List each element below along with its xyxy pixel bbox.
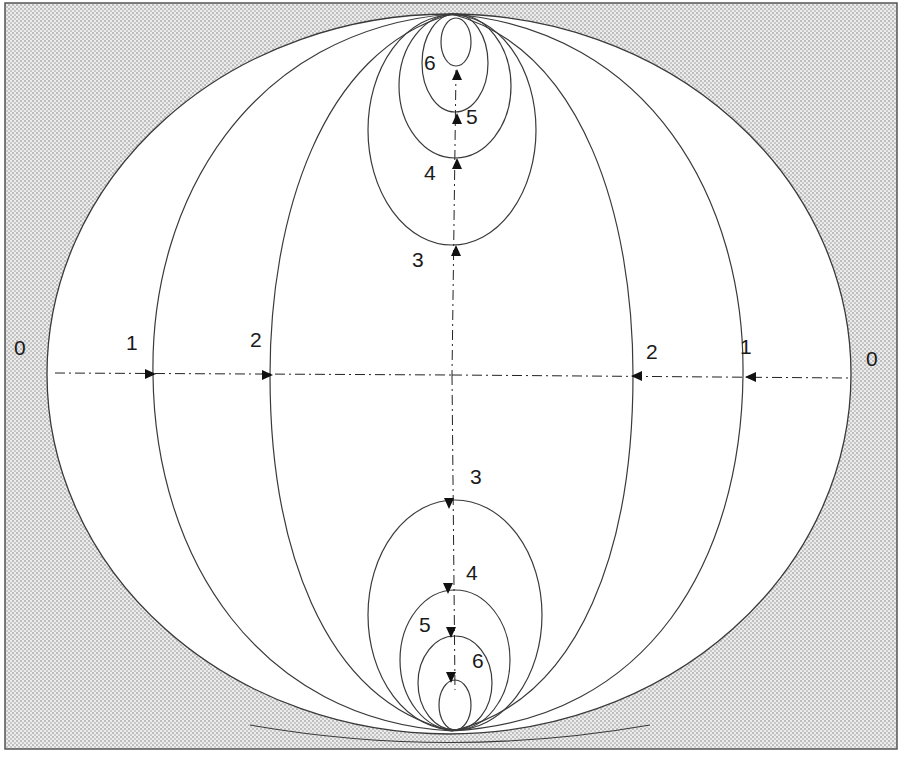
label-left-0: 0 bbox=[14, 336, 26, 359]
contour-level-0 bbox=[47, 14, 851, 734]
label-top-3: 3 bbox=[412, 248, 424, 271]
label-left-1: 1 bbox=[126, 331, 138, 354]
label-bottom-5: 5 bbox=[419, 613, 431, 636]
label-bottom-4: 4 bbox=[466, 561, 478, 584]
label-right-2: 2 bbox=[646, 340, 658, 363]
label-right-0: 0 bbox=[866, 347, 878, 370]
label-left-2: 2 bbox=[250, 328, 262, 351]
label-top-4: 4 bbox=[424, 161, 436, 184]
label-top-6: 6 bbox=[424, 51, 436, 74]
label-bottom-3: 3 bbox=[470, 465, 482, 488]
label-top-5: 5 bbox=[466, 105, 478, 128]
label-right-1: 1 bbox=[740, 335, 752, 358]
contour-diagram: 0 1 2 2 1 0 6 5 4 3 3 4 5 6 bbox=[0, 0, 902, 757]
label-bottom-6: 6 bbox=[472, 649, 484, 672]
